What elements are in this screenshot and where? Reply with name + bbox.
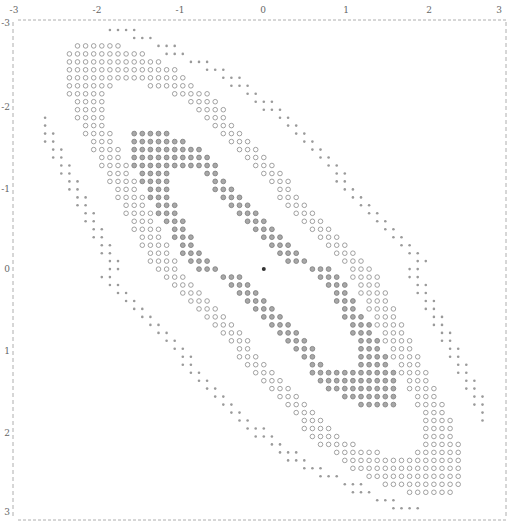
- data-point: [180, 163, 185, 168]
- data-point: [213, 171, 218, 176]
- data-point: [83, 60, 88, 65]
- data-point: [302, 219, 307, 224]
- data-point: [172, 211, 177, 216]
- data-point: [270, 243, 275, 248]
- data-point: [189, 259, 194, 264]
- data-point: [253, 147, 258, 152]
- data-point: [286, 195, 291, 200]
- data-point: [68, 164, 71, 167]
- data-point: [156, 203, 161, 208]
- data-point: [172, 92, 177, 97]
- data-point: [261, 219, 266, 224]
- data-point: [164, 275, 169, 280]
- data-point: [351, 370, 356, 375]
- data-point: [383, 466, 388, 471]
- data-point: [326, 275, 331, 280]
- data-point: [359, 458, 364, 463]
- data-point: [302, 426, 307, 431]
- data-point: [91, 60, 96, 65]
- data-point: [367, 394, 372, 399]
- data-point: [295, 132, 298, 135]
- data-point: [262, 362, 267, 367]
- data-point: [351, 458, 356, 463]
- data-point: [465, 379, 468, 382]
- data-point: [278, 323, 283, 328]
- data-point: [116, 155, 121, 160]
- data-point: [148, 187, 153, 192]
- data-point: [294, 203, 299, 208]
- data-point: [342, 370, 347, 375]
- data-point: [92, 212, 95, 215]
- data-point: [440, 474, 445, 479]
- data-point: [318, 275, 323, 280]
- data-point: [343, 243, 348, 248]
- y-tick-label: 0: [4, 264, 10, 274]
- data-point: [133, 308, 136, 311]
- data-point: [407, 370, 412, 375]
- data-point: [116, 147, 121, 152]
- data-point: [383, 307, 388, 312]
- data-point: [205, 99, 210, 104]
- data-point: [68, 172, 71, 175]
- data-point: [173, 340, 176, 343]
- data-point: [383, 402, 388, 407]
- data-point: [448, 474, 453, 479]
- data-point: [124, 187, 129, 192]
- data-point: [457, 356, 460, 359]
- data-point: [198, 61, 201, 64]
- data-point: [189, 299, 194, 304]
- data-point: [432, 482, 437, 487]
- data-point: [67, 76, 72, 81]
- data-point: [67, 60, 72, 65]
- data-point: [140, 171, 145, 176]
- data-point: [222, 69, 225, 72]
- data-point: [245, 355, 250, 360]
- data-point: [391, 307, 396, 312]
- data-point: [359, 394, 364, 399]
- data-point: [432, 474, 437, 479]
- data-point: [44, 124, 47, 127]
- data-point: [408, 276, 411, 279]
- data-point: [392, 228, 395, 231]
- data-point: [318, 362, 323, 367]
- data-point: [148, 251, 153, 256]
- data-point: [424, 474, 429, 479]
- data-point: [294, 338, 299, 343]
- data-point: [229, 331, 234, 336]
- data-point: [132, 131, 137, 136]
- data-point: [101, 244, 104, 247]
- data-point: [156, 211, 161, 216]
- data-point: [359, 378, 364, 383]
- data-point: [448, 442, 453, 447]
- data-point: [75, 99, 80, 104]
- data-point: [302, 211, 307, 216]
- data-point: [221, 187, 226, 192]
- data-point: [100, 44, 105, 49]
- data-point: [197, 307, 202, 312]
- data-point: [261, 299, 266, 304]
- data-point: [172, 155, 177, 160]
- data-point: [367, 346, 372, 351]
- data-point: [359, 283, 364, 288]
- data-point: [140, 131, 145, 136]
- data-point: [156, 259, 161, 264]
- data-point: [391, 331, 396, 336]
- data-point: [60, 148, 63, 151]
- data-point: [287, 124, 290, 127]
- data-point: [302, 402, 307, 407]
- data-point: [156, 84, 161, 89]
- data-point: [335, 180, 338, 183]
- data-point: [270, 386, 275, 391]
- data-point: [124, 203, 129, 208]
- data-point: [91, 107, 96, 112]
- data-point: [287, 451, 290, 454]
- data-point: [335, 164, 338, 167]
- data-point: [164, 187, 169, 192]
- data-point: [172, 227, 177, 232]
- data-point: [311, 467, 314, 470]
- data-point: [245, 219, 250, 224]
- data-point: [164, 179, 169, 184]
- data-point: [172, 283, 177, 288]
- data-point: [91, 99, 96, 104]
- data-point: [108, 60, 113, 65]
